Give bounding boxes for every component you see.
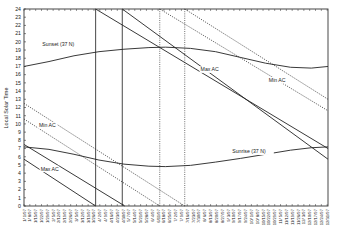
x-tick-label: 12/10/97 <box>307 208 312 225</box>
annotation-label: Sunset (37 N) <box>42 41 74 47</box>
y-tick-label: 8 <box>18 137 21 143</box>
annotation-label: Max AC <box>41 166 59 172</box>
max-ac-line <box>122 9 328 159</box>
x-tick-label: 12/24/97 <box>319 208 324 225</box>
min-ac-line <box>24 103 185 206</box>
x-tick-label: 4/30/97 <box>121 208 126 223</box>
x-tick-label: 8/13/97 <box>208 208 213 223</box>
x-tick-label: 7/30/97 <box>196 208 201 223</box>
x-tick-label: 5/ 7/97 <box>126 208 131 221</box>
x-tick-label: 2/12/97 <box>56 208 61 223</box>
x-tick-label: 3/ 5/97 <box>74 208 79 221</box>
x-tick-label: 1/15/97 <box>33 208 38 223</box>
annotations: Sunset (37 N)Sunrise (37 N)Max ACMax ACM… <box>38 41 287 172</box>
x-tick-label: 8/27/97 <box>220 208 225 223</box>
y-tick-label: 23 <box>15 14 21 20</box>
x-tick-label: 6/11/97 <box>156 208 161 222</box>
x-tick-label: 1/29/97 <box>45 208 50 223</box>
y-tick-label: 9 <box>18 129 21 135</box>
y-tick-label: 15 <box>15 80 21 86</box>
x-tick-label: 11/ 5/97 <box>278 208 283 223</box>
x-tick-label: 7/23/97 <box>191 208 196 223</box>
x-tick-label: 10/22/97 <box>266 208 271 225</box>
x-tick-label: 7/ 2/97 <box>173 208 178 221</box>
plot-frame <box>24 9 328 206</box>
x-tick-label: 1/ 8/97 <box>27 208 32 221</box>
x-tick-label: 9/10/97 <box>231 208 236 223</box>
x-tick-label: 12/31/97 <box>325 208 330 225</box>
y-axis-label: Local Solar Time <box>3 88 9 129</box>
x-tick-label: 12/17/97 <box>313 208 318 225</box>
x-tick-label: 4/ 9/97 <box>103 208 108 221</box>
x-tick-label: 6/ 4/97 <box>150 208 155 221</box>
x-tick-label: 8/20/97 <box>214 208 219 223</box>
max-ac-line <box>96 9 328 149</box>
x-tick-label: 9/17/97 <box>237 208 242 223</box>
solar-time-chart: Local Solar Time 01234567891011121314151… <box>0 0 340 239</box>
annotation-label: Max AC <box>201 66 219 72</box>
x-tick-label: 1/ 1/97 <box>22 208 27 221</box>
vertical-markers <box>96 9 185 206</box>
y-tick-label: 16 <box>15 71 21 77</box>
sunrise-37-n-line <box>24 147 328 167</box>
x-tick-label: 12/ 3/97 <box>301 208 306 224</box>
x-tick-label: 9/ 3/97 <box>226 208 231 221</box>
svg-text:Local Solar Time: Local Solar Time <box>3 88 9 129</box>
min-ac-line <box>185 9 328 99</box>
x-tick-label: 7/ 9/97 <box>179 208 184 221</box>
y-tick-label: 3 <box>18 178 21 184</box>
x-tick-label: 3/12/97 <box>80 208 85 223</box>
x-tick-label: 2/26/97 <box>68 208 73 223</box>
y-tick-label: 0 <box>18 203 21 209</box>
x-tick-label: 10/29/97 <box>272 208 277 225</box>
x-tick-label: 4/23/97 <box>115 208 120 223</box>
y-tick-label: 10 <box>15 121 21 127</box>
y-tick-label: 14 <box>15 88 21 94</box>
data-series <box>24 9 328 206</box>
max-ac-line <box>24 144 125 206</box>
x-tick-label: 9/24/97 <box>243 208 248 223</box>
x-tick-label: 11/12/97 <box>284 208 289 225</box>
x-tick-label: 6/18/97 <box>161 208 166 223</box>
y-tick-label: 5 <box>18 162 21 168</box>
annotation-label: Min AC <box>39 122 56 128</box>
x-tick-label: 3/19/97 <box>86 208 91 223</box>
x-tick-label: 11/26/97 <box>296 208 301 225</box>
x-tick-label: 3/26/97 <box>91 208 96 223</box>
y-tick-label: 1 <box>18 195 21 201</box>
x-tick-label: 2/ 5/97 <box>51 208 56 221</box>
y-tick-label: 11 <box>16 113 21 119</box>
min-ac-line <box>24 119 160 206</box>
x-tick-label: 7/16/97 <box>185 208 190 223</box>
y-tick-label: 6 <box>18 154 21 160</box>
x-tick-label: 10/ 1/97 <box>249 208 254 224</box>
y-tick-label: 7 <box>18 145 21 151</box>
y-tick-label: 24 <box>15 6 21 12</box>
y-tick-label: 20 <box>15 39 21 45</box>
y-tick-label: 13 <box>15 96 21 102</box>
x-tick-label: 8/ 6/97 <box>202 208 207 221</box>
y-tick-label: 4 <box>18 170 21 176</box>
y-tick-label: 2 <box>18 186 21 192</box>
annotation-label: Sunrise (37 N) <box>232 148 266 154</box>
y-tick-label: 17 <box>15 63 21 69</box>
y-tick-label: 18 <box>15 55 21 61</box>
y-tick-label: 22 <box>15 22 21 28</box>
y-tick-label: 19 <box>15 47 21 53</box>
x-tick-label: 6/25/97 <box>167 208 172 223</box>
x-tick-label: 5/21/97 <box>138 208 143 223</box>
x-tick-label: 5/14/97 <box>132 208 137 223</box>
y-tick-label: 21 <box>15 30 21 36</box>
x-tick-label: 4/ 2/97 <box>97 208 102 221</box>
y-tick-label: 12 <box>15 104 21 110</box>
x-tick-label: 5/28/97 <box>144 208 149 223</box>
x-tick-label: 2/19/97 <box>62 208 67 223</box>
x-tick-label: 10/15/97 <box>261 208 266 225</box>
x-tick-label: 11/19/97 <box>290 208 295 225</box>
annotation-label: Min AC <box>269 77 286 83</box>
x-tick-label: 4/16/97 <box>109 208 114 223</box>
x-tick-label: 1/22/97 <box>39 208 44 223</box>
x-tick-label: 10/ 8/97 <box>255 208 260 224</box>
